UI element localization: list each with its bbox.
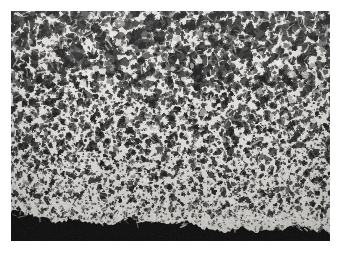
micrograph-image — [11, 11, 330, 241]
micrograph-canvas — [11, 11, 330, 241]
sensor-grain-overlay — [11, 11, 330, 241]
figure-root: Grayscale micrograph of a porous cellula… — [0, 0, 342, 253]
